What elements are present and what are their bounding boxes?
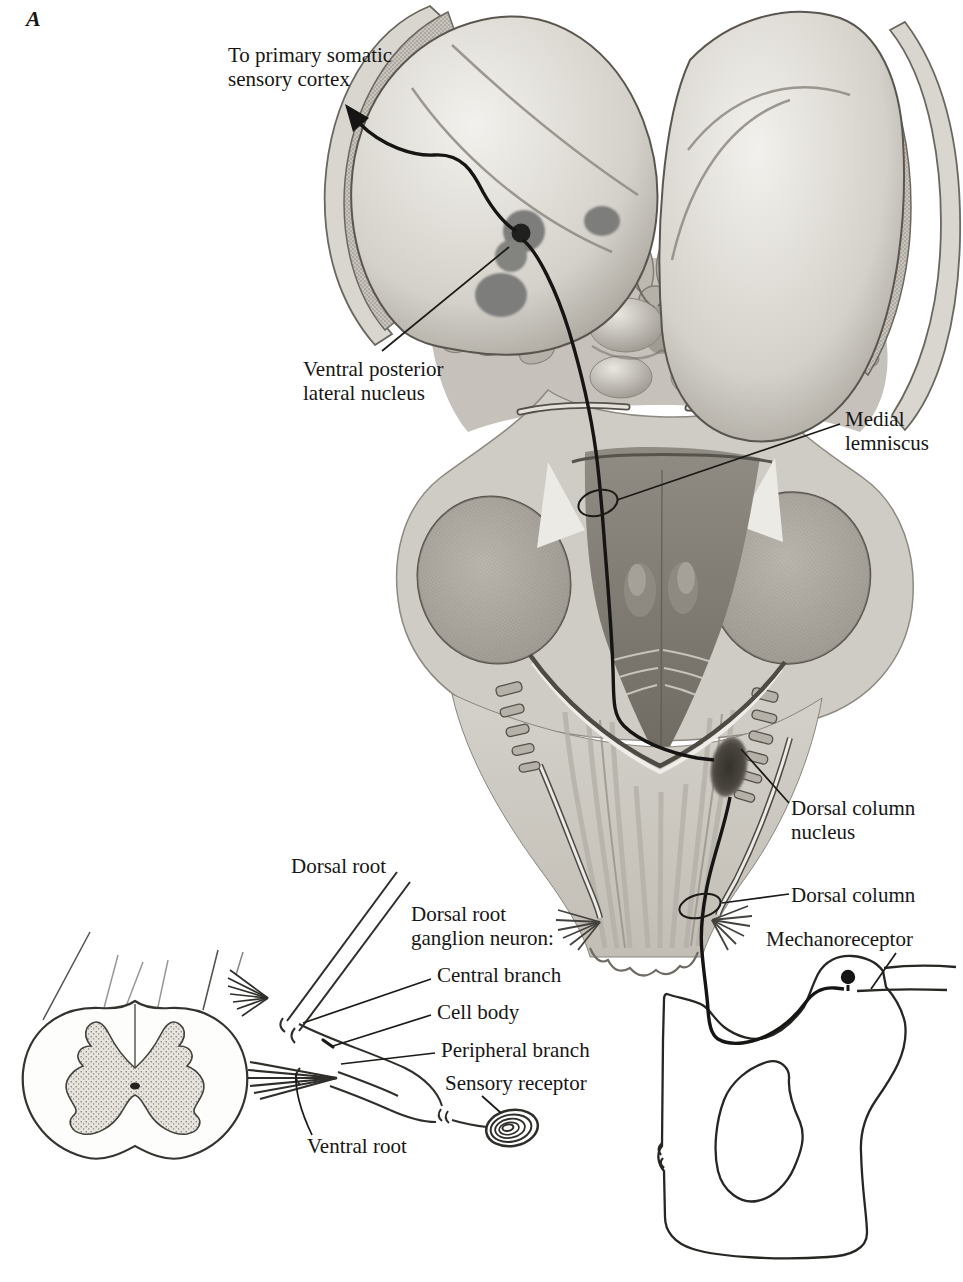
label-primary-somatic-cortex: To primary somatic sensory cortex [228, 43, 392, 91]
cell-body-mark [323, 1040, 333, 1047]
label-sensory-receptor: Sensory receptor [445, 1071, 587, 1095]
leader-cell-body [333, 1015, 431, 1046]
label-dorsal-column-nucleus: Dorsal column nucleus [791, 796, 915, 844]
leader-mechanoreceptor [871, 953, 896, 989]
leader-peripheral-branch [341, 1053, 435, 1064]
label-ventral-root: Ventral root [307, 1134, 407, 1158]
label-medial-lemniscus: Medial lemniscus [845, 407, 929, 455]
label-peripheral-branch: Peripheral branch [441, 1038, 590, 1062]
label-central-branch: Central branch [437, 963, 561, 987]
figure-page: A To primary somatic sensory cortex Vent… [0, 0, 963, 1282]
spinal-cord-cross-section [23, 932, 248, 1159]
label-mechanoreceptor: Mechanoreceptor [766, 927, 913, 951]
index-finger-line-upper [884, 966, 956, 968]
thalamus-right-lobe [659, 12, 960, 441]
label-cell-body: Cell body [437, 1000, 519, 1024]
sensory-receptor-corpuscle [483, 1106, 540, 1150]
index-finger-line-lower [857, 989, 947, 991]
central-canal [130, 1083, 140, 1090]
label-dorsal-column: Dorsal column [791, 883, 915, 907]
label-dorsal-root: Dorsal root [291, 854, 386, 878]
dorsal-root-tube [280, 872, 410, 1043]
mechanoreceptor-dot [841, 970, 855, 984]
leader-sensory-receptor [482, 1096, 501, 1113]
vpl-target-dot [512, 224, 531, 243]
panel-label: A [26, 6, 41, 32]
label-ventral-posterior-lateral-nucleus: Ventral posterior lateral nucleus [303, 357, 444, 405]
label-dorsal-root-ganglion-neuron: Dorsal root ganglion neuron: [411, 902, 554, 950]
